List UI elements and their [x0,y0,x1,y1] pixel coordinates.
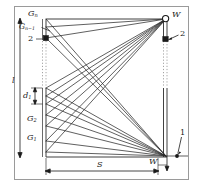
label-marker-2-left: 2 [28,34,33,42]
label-w-bottom: W [149,157,157,165]
label-g-n: Gn [28,9,38,18]
label-g-1: G1 [27,133,37,142]
node-square-left-2 [43,36,48,41]
label-marker-2-right: 2 [180,29,185,37]
label-d-1: d1 [23,91,31,100]
figure-container: Gn Gn−1 2 d1 G2 G1 l S W W 2 1 [0,0,202,186]
label-marker-1-right: 1 [180,128,185,136]
label-dimension-s: S [97,160,103,168]
label-w-top: W [172,10,180,18]
label-dimension-l: l [12,76,15,84]
node-square-right-2 [163,37,168,42]
node-circle-w-top [163,16,169,22]
label-g-2: G2 [27,114,37,123]
label-g-n-minus-1: Gn−1 [19,23,35,32]
